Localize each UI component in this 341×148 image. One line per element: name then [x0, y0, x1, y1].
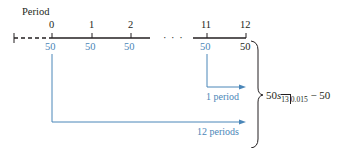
- payment-0: 50: [45, 42, 56, 53]
- period-label-0: 0: [49, 20, 54, 31]
- payment-11: 50: [200, 42, 211, 53]
- arrow-label-12-periods: 12 periods: [197, 127, 239, 137]
- accumulated-value-formula: 50s130.015 − 50: [266, 89, 330, 101]
- formula-rate: 0.015: [291, 95, 308, 104]
- period-label-12: 12: [240, 20, 251, 31]
- timeline-ellipsis: · · ·: [163, 33, 184, 44]
- payment-12: 50: [240, 42, 251, 53]
- formula-angle-n: 13: [281, 94, 291, 104]
- arrow-12-periods: [52, 54, 240, 122]
- formula-coefficient: 50: [266, 89, 277, 101]
- arrow-label-1-period: 1 period: [206, 92, 239, 102]
- period-label-1: 1: [89, 20, 94, 31]
- payment-2: 50: [124, 42, 135, 53]
- arrow-1-period: [207, 54, 240, 87]
- arrowhead-12-periods-icon: [239, 120, 246, 125]
- brace-icon: [251, 41, 263, 148]
- period-axis-title: Period: [22, 7, 49, 18]
- formula-minus-term: − 50: [308, 89, 331, 101]
- period-label-2: 2: [128, 20, 133, 31]
- arrowhead-1-period-icon: [239, 85, 246, 90]
- period-label-11: 11: [201, 20, 211, 31]
- payment-1: 50: [85, 42, 96, 53]
